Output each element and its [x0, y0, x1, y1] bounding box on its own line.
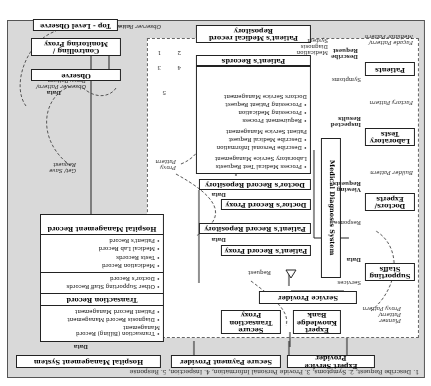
step-3-label: 3 — [158, 65, 162, 71]
record-item: • Doctor's Record — [41, 272, 163, 283]
patient-item: • Describe Personal Information — [214, 144, 310, 155]
transaction-item: • Transaction (Billing) Record Managemen… — [41, 324, 163, 341]
patients-record-proxy-box: Patient's Record Proxy — [221, 245, 311, 256]
record-item: • Patient's Record — [41, 234, 163, 245]
doctors-record-proxy-box: Doctor's Record Proxy — [221, 199, 311, 210]
data-label: Data — [74, 344, 88, 350]
supporting-staffs-box: Supporting Staffs — [365, 263, 415, 281]
patients-record-repository-box: Patient's Record Repository — [199, 223, 311, 234]
record-item: • Tests Records — [113, 253, 163, 261]
hospital-management-record: • Transaction (Billing) Record Managemen… — [40, 214, 164, 342]
lab-item: • Process Medical Test Requests — [213, 163, 310, 173]
laboratory-tests-box: Laboratory Tests — [365, 128, 415, 146]
hmr-title: Hospital Management Record — [41, 223, 163, 234]
proxy-pattern-label: Proxy Pattern — [146, 159, 176, 171]
data-label: Data — [347, 257, 361, 263]
doctors-record-repository-box: Doctor's Record Repository — [199, 179, 311, 190]
patients-box: Patients — [365, 62, 415, 76]
patient-item: • Describe Medical Request — [226, 136, 310, 144]
hospital-management-system-box: Hospital Management System — [16, 355, 161, 368]
transaction-item: • Diagnosis Record Management — [65, 316, 163, 324]
data-label: Data — [47, 90, 61, 96]
builder-pattern-label: Builder Pattern — [370, 170, 413, 176]
doctor-service-title: Doctors Service Management — [221, 93, 310, 101]
service-provider-box: Service Provider — [259, 291, 357, 304]
inspected-results-label: Inspected Results — [329, 116, 361, 128]
step-4-label: 4 — [178, 65, 182, 71]
lab-service-title: Laboratory Service Management — [212, 155, 310, 163]
factory-pattern-label: Factory Pattern — [370, 100, 413, 106]
describe-request-label: Describe Request — [330, 48, 358, 60]
secure-transaction-proxy-box: Secure Transaction Proxy — [221, 310, 281, 334]
doctor-item: • Processing Patient Request — [223, 101, 310, 109]
secure-payment-provider-box: Secure Payment Provider — [171, 355, 281, 368]
patient-service-title: Patient Service Management — [223, 128, 310, 136]
medical-diagnosis-system-box: Medical Diagnosis System — [321, 138, 341, 278]
record-item: • Medication Record — [99, 262, 163, 272]
planner-pattern-label: Planner Pattern/ Proxy Pattern — [361, 306, 401, 324]
data-label: Data — [212, 237, 226, 243]
expert-service-provider-box: Expert Service Provider — [287, 355, 375, 368]
controlling-monitoring-proxy-box: Controlling / Monitoring Proxy — [31, 38, 121, 56]
doctor-item: • Requirement Process — [239, 117, 310, 128]
medication-diagnosis-system-label: Medication Diagnosis System — [293, 38, 328, 56]
transaction-record-title: Transaction Record — [41, 293, 163, 305]
facade-pattern-label: Façade Pattern/ Mediator Pattern — [353, 34, 413, 46]
response-label: Response — [334, 220, 361, 226]
step-1-label: 1 — [158, 50, 162, 56]
patients-records-box: Patient's Records — [196, 55, 311, 66]
step-2-label: 2 — [178, 50, 182, 56]
doctor-item: • Processing Medication — [235, 109, 310, 117]
observe-box: Observe — [31, 69, 121, 81]
architecture-diagram: 1. Describe Request, 2. Symptoms, 3. Pro… — [0, 0, 431, 386]
record-item: • Other Supporting Staff Records — [63, 283, 163, 293]
data-label: Data — [212, 192, 226, 198]
step-5-label: 5 — [163, 90, 167, 96]
doctors-experts-box: Doctors/ Experts — [365, 193, 415, 211]
top-level-observe-box: Top - Level Observe — [33, 19, 118, 31]
symptoms-label: Symptoms — [332, 77, 361, 83]
services-label: Services — [337, 280, 361, 286]
record-item: • Medical Lab Record — [96, 245, 163, 253]
request-label: Request — [248, 270, 271, 276]
observer-pattern-label: Observer Pattern — [113, 24, 161, 30]
expert-knowledge-bank-box: Expert Knowledge Bank — [293, 310, 341, 334]
get-save-request-label: Get/ Save Request — [36, 162, 76, 174]
service-management-box: • Process Medical Test Requests Laborato… — [196, 66, 311, 174]
transaction-item: • Patient Record Management — [41, 305, 163, 316]
viewing-requests-label: Viewing Requests — [331, 181, 361, 193]
